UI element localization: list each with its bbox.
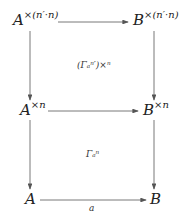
- node-top-left: A×(n′·n): [13, 13, 58, 28]
- node-mid-right: B×n: [143, 103, 169, 118]
- node-mid-left: A×n: [20, 103, 46, 118]
- node-bot-left: A: [25, 192, 36, 207]
- node-exponent: ×n: [31, 99, 46, 110]
- node-base: B: [133, 11, 144, 29]
- node-exponent: ×n: [154, 99, 169, 110]
- node-base: A: [20, 101, 31, 119]
- node-base: A: [13, 11, 24, 29]
- node-base: A: [25, 190, 36, 208]
- label-upper-square: (Γₐⁿ′)×ⁿ: [77, 60, 111, 70]
- node-exponent: ×(n′·n): [144, 9, 179, 20]
- node-top-right: B×(n′·n): [133, 13, 179, 28]
- node-base: B: [150, 190, 161, 208]
- label-lower-square: Γₐⁿ: [86, 149, 99, 159]
- label-bottom-arrow: a: [89, 203, 94, 213]
- node-exponent: ×(n′·n): [24, 9, 59, 20]
- node-bot-right: B: [150, 192, 161, 207]
- node-base: B: [143, 101, 154, 119]
